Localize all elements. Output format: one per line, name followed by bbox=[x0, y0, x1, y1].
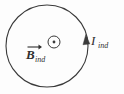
label-i-induced: I ind bbox=[91, 34, 123, 54]
current-subscript: ind bbox=[98, 42, 108, 50]
b-field-subscript: ind bbox=[35, 56, 45, 64]
current-direction-arrowhead bbox=[82, 34, 90, 44]
current-symbol: I bbox=[91, 34, 95, 47]
label-b-induced: B ind bbox=[24, 44, 58, 66]
field-symbol-center-dot bbox=[53, 41, 56, 44]
physics-diagram-figure: B ind I ind bbox=[0, 0, 124, 94]
b-field-symbol: B bbox=[26, 48, 35, 61]
